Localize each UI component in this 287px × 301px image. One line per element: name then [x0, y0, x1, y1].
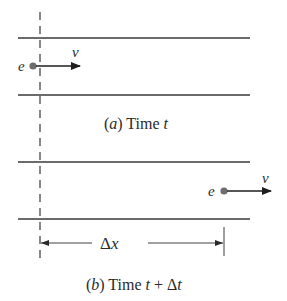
electron-label-a: e: [18, 58, 25, 74]
displacement-label: Δx: [100, 234, 119, 253]
velocity-label-a: v: [72, 44, 79, 60]
electron-drift-diagram: e v (a) Time t e v Δx (b) Time t + Δt: [0, 0, 287, 301]
electron-dot-a: [29, 62, 36, 69]
velocity-label-b: v: [262, 170, 269, 186]
panel-a: e v (a) Time t: [18, 38, 250, 133]
panel-b: e v Δx (b) Time t + Δt: [18, 162, 271, 294]
electron-dot-b: [220, 187, 227, 194]
caption-b: (b) Time t + Δt: [86, 276, 182, 294]
caption-a: (a) Time t: [104, 115, 169, 133]
electron-label-b: e: [208, 183, 215, 199]
